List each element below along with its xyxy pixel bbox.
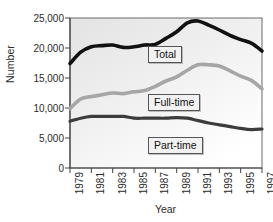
- y-tick-label: 5,000: [20, 133, 64, 144]
- chart-figure: 05,00010,00015,00020,00025,000 197919811…: [0, 0, 273, 222]
- y-tick-label: 10,000: [20, 103, 64, 114]
- legend-total: Total: [148, 46, 182, 63]
- y-axis-title: Number: [4, 32, 16, 96]
- x-axis-title: Year: [68, 203, 263, 215]
- y-axis-tick-labels: 05,00010,00015,00020,00025,000: [14, 0, 64, 222]
- y-axis-ticks: [65, 18, 70, 168]
- x-tick-label: 1987: [159, 172, 170, 194]
- x-tick-label: 1979: [74, 172, 85, 194]
- x-tick-label: 1989: [181, 172, 192, 194]
- x-tick-label: 1997: [266, 172, 273, 194]
- y-tick-label: 0: [20, 163, 64, 174]
- y-tick-label: 20,000: [20, 43, 64, 54]
- legend-full-time: Full-time: [148, 94, 200, 111]
- x-tick-label: 1983: [117, 172, 128, 194]
- legend-part-time: Part-time: [148, 137, 203, 154]
- x-tick-label: 1991: [202, 172, 213, 194]
- x-tick-label: 1985: [138, 172, 149, 194]
- x-tick-label: 1993: [223, 172, 234, 194]
- x-tick-label: 1981: [95, 172, 106, 194]
- y-tick-label: 15,000: [20, 73, 64, 84]
- y-tick-label: 25,000: [20, 13, 64, 24]
- x-tick-label: 1995: [245, 172, 256, 194]
